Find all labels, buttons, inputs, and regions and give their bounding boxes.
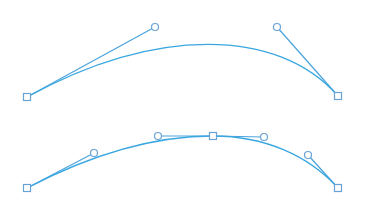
anchor-point-square-icon[interactable] bbox=[24, 94, 31, 101]
control-handle-circle-icon[interactable] bbox=[305, 152, 312, 159]
control-handle-circle-icon[interactable] bbox=[155, 133, 162, 140]
anchor-point-square-icon[interactable] bbox=[335, 93, 342, 100]
control-handle-circle-icon[interactable] bbox=[261, 134, 268, 141]
control-handle-circle-icon[interactable] bbox=[274, 24, 281, 31]
anchor-point-square-icon[interactable] bbox=[24, 185, 31, 192]
control-handle-circle-icon[interactable] bbox=[91, 150, 98, 157]
control-handle-circle-icon[interactable] bbox=[152, 24, 159, 31]
anchor-point-square-icon[interactable] bbox=[210, 133, 217, 140]
bezier-curve-diagram bbox=[0, 0, 365, 206]
anchor-point-square-icon[interactable] bbox=[335, 185, 342, 192]
